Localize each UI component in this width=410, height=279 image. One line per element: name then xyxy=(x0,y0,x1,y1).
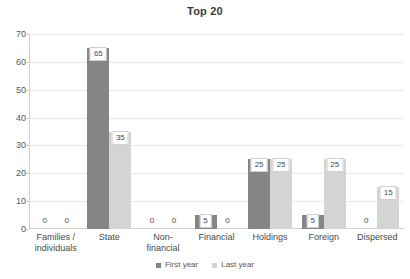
legend-item[interactable]: First year xyxy=(156,261,198,269)
x-axis-category-label: Foreign xyxy=(297,232,351,254)
legend-label: First year xyxy=(165,261,198,269)
chart-container: Top 20 010203040506070 00653500502525525… xyxy=(0,0,410,279)
x-axis-category-label: Financial xyxy=(190,232,244,254)
bar-group: 00 xyxy=(136,34,190,229)
bar-slot: 25 xyxy=(248,34,270,229)
bar-group: 50 xyxy=(190,34,244,229)
bar-slot: 0 xyxy=(141,34,163,229)
bar-slot: 25 xyxy=(324,34,346,229)
bar-slot: 0 xyxy=(217,34,239,229)
bar-group: 015 xyxy=(350,34,404,229)
bar-value-label: 0 xyxy=(147,215,157,227)
bar-value-label: 0 xyxy=(40,215,50,227)
y-axis: 010203040506070 xyxy=(0,34,26,229)
bar-value-label: 35 xyxy=(112,131,129,145)
y-axis-tick-label: 20 xyxy=(0,169,26,178)
bar-value-label: 5 xyxy=(306,214,318,228)
bar-value-label: 5 xyxy=(199,214,211,228)
legend-swatch-icon xyxy=(212,263,217,268)
x-axis-category-label: Non-financial xyxy=(136,232,190,254)
x-axis-category-label: Holdings xyxy=(243,232,297,254)
bar-group: 525 xyxy=(297,34,351,229)
y-axis-tick-label: 70 xyxy=(0,30,26,39)
bar-value-label: 15 xyxy=(380,186,397,200)
bar-slot: 0 xyxy=(355,34,377,229)
bar-slot: 0 xyxy=(34,34,56,229)
bar-slot: 5 xyxy=(195,34,217,229)
bar-slot: 0 xyxy=(163,34,185,229)
bar-value-label: 65 xyxy=(90,47,107,61)
bar-value-label: 25 xyxy=(251,158,268,172)
bar-group: 00 xyxy=(29,34,83,229)
x-axis-category-label: State xyxy=(83,232,137,254)
y-axis-tick-label: 60 xyxy=(0,57,26,66)
bar-value-label: 0 xyxy=(361,215,371,227)
bar-slot: 15 xyxy=(377,34,399,229)
bar-slot: 65 xyxy=(87,34,109,229)
bar-slot: 25 xyxy=(270,34,292,229)
bar-groups: 00653500502525525015 xyxy=(29,34,404,229)
y-axis-tick-label: 10 xyxy=(0,197,26,206)
chart-title: Top 20 xyxy=(0,5,410,17)
bar[interactable] xyxy=(109,132,131,230)
bar-group: 2525 xyxy=(243,34,297,229)
bar-value-label: 25 xyxy=(326,158,343,172)
legend-swatch-icon xyxy=(156,263,161,268)
y-axis-tick-label: 30 xyxy=(0,141,26,150)
y-axis-tick-label: 0 xyxy=(0,225,26,234)
bar-value-label: 0 xyxy=(169,215,179,227)
x-axis-category-label: Families /individuals xyxy=(29,232,83,254)
bar-slot: 35 xyxy=(109,34,131,229)
y-axis-tick xyxy=(26,229,29,230)
legend-label: Last year xyxy=(221,261,254,269)
bar[interactable] xyxy=(87,48,109,229)
y-axis-tick-label: 50 xyxy=(0,85,26,94)
bar-value-label: 0 xyxy=(222,215,232,227)
bar-slot: 0 xyxy=(56,34,78,229)
legend-item[interactable]: Last year xyxy=(212,261,254,269)
x-axis-category-label: Dispersed xyxy=(350,232,404,254)
bar-slot: 5 xyxy=(302,34,324,229)
y-axis-tick-label: 40 xyxy=(0,113,26,122)
bar-value-label: 0 xyxy=(62,215,72,227)
x-axis-labels: Families /individualsStateNon-financialF… xyxy=(29,232,404,254)
bar-value-label: 25 xyxy=(273,158,290,172)
bar-group: 6535 xyxy=(83,34,137,229)
chart-legend: First yearLast year xyxy=(0,261,410,269)
